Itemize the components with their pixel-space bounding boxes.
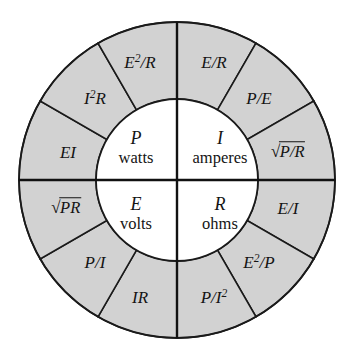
wheel-geometry	[0, 0, 353, 350]
ohms-law-wheel-diagram: E2/RI2REIE/RP/E√P/RE/IE2/PP/I2IRP/I√PRPw…	[0, 0, 353, 350]
